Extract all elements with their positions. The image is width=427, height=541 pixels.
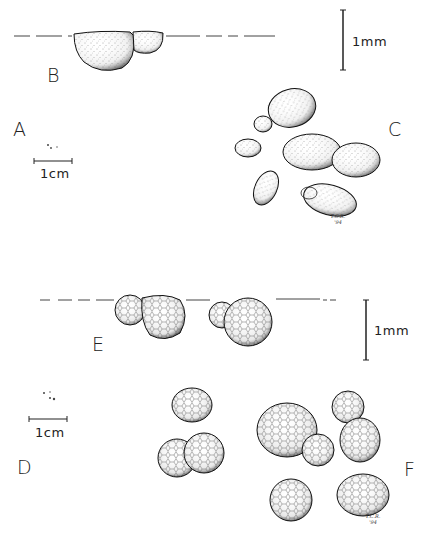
panel-label-f: F bbox=[404, 460, 415, 479]
scale-bar-top bbox=[340, 10, 346, 70]
scale-label-bottom-mm: 1mm bbox=[374, 324, 409, 337]
panel-d-specimens bbox=[29, 391, 67, 422]
scale-label-d: 1cm bbox=[35, 426, 65, 439]
signature-top-year: '94 bbox=[329, 220, 347, 226]
panel-f-cells bbox=[158, 388, 389, 521]
scale-label-a: 1cm bbox=[40, 167, 70, 180]
panel-label-c: C bbox=[388, 120, 401, 139]
panel-label-d: D bbox=[17, 458, 32, 477]
panel-label-b: B bbox=[47, 66, 59, 85]
panel-c-cells bbox=[235, 83, 380, 221]
scale-bar-bottom bbox=[363, 300, 369, 360]
panel-e-drawing bbox=[40, 295, 336, 346]
panel-label-a: A bbox=[13, 120, 26, 139]
signature-bottom: T.C.R. '94 bbox=[364, 514, 382, 525]
scale-label-top-mm: 1mm bbox=[352, 35, 387, 48]
figure-illustration bbox=[0, 0, 427, 541]
panel-a-specimens bbox=[34, 144, 72, 164]
panel-label-e: E bbox=[92, 335, 104, 354]
signature-bottom-year: '94 bbox=[364, 520, 382, 526]
signature-top: T.C.R. '94 bbox=[329, 214, 347, 225]
